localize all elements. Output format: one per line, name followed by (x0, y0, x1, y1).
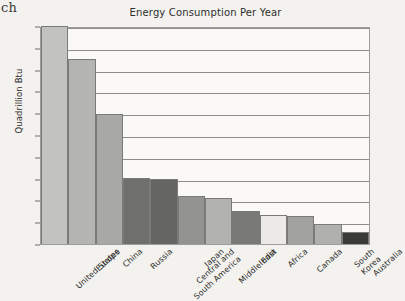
y-axis-tick-mark (35, 114, 40, 115)
x-axis-tick-label: Canada (315, 247, 344, 275)
y-axis-tick-mark (35, 157, 40, 158)
bar[interactable] (205, 198, 232, 244)
page-text-fragment: ch (1, 1, 17, 15)
bar[interactable] (96, 114, 123, 244)
y-axis-tick-mark (35, 201, 40, 202)
x-axis-tick-label: Africa (286, 247, 310, 270)
x-axis-tick-label: India (257, 247, 278, 268)
y-axis-tick-mark (35, 27, 40, 28)
bar[interactable] (232, 211, 259, 244)
bar[interactable] (41, 26, 68, 244)
y-axis-label: Quadrillion Btu (14, 46, 24, 156)
bar[interactable] (342, 232, 369, 244)
x-axis-tick-label: China (121, 247, 145, 270)
bar[interactable] (287, 216, 314, 244)
bar[interactable] (260, 215, 287, 244)
chart-title: Energy Consumption Per Year (40, 7, 371, 18)
bar-series (41, 28, 369, 244)
bar[interactable] (178, 196, 205, 244)
x-axis-labels: United StatesEuropeChinaRussiaCentral an… (40, 247, 370, 297)
y-axis-tick-mark (35, 136, 40, 137)
x-axis-tick-label: Russia (149, 247, 175, 272)
y-axis-tick-mark (35, 223, 40, 224)
y-axis-tick-mark (35, 70, 40, 71)
y-axis-tick-mark (35, 48, 40, 49)
plot-area (40, 27, 370, 245)
bar[interactable] (314, 224, 341, 244)
y-axis-tick-mark (35, 92, 40, 93)
bar[interactable] (68, 59, 95, 244)
y-axis-tick-mark (35, 245, 40, 246)
y-axis-tick-mark (35, 179, 40, 180)
bar[interactable] (123, 178, 150, 244)
bar[interactable] (150, 179, 177, 244)
